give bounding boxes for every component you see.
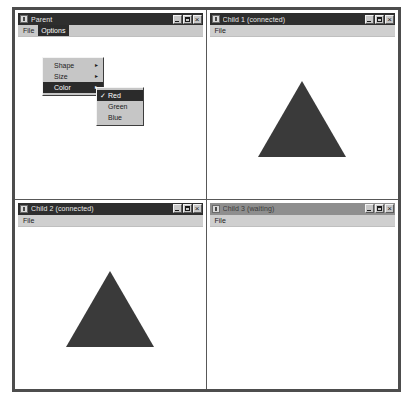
child3-menubar[interactable]: File bbox=[210, 215, 396, 227]
menu-item-blue[interactable]: Blue bbox=[97, 112, 143, 123]
menu-item-size-label: Size bbox=[53, 72, 92, 81]
parent-title: Parent bbox=[31, 15, 169, 24]
child1-menubar[interactable]: File bbox=[210, 25, 396, 37]
menu-item-green[interactable]: Green bbox=[97, 101, 143, 112]
app-icon bbox=[20, 15, 28, 23]
triangle-shape bbox=[66, 271, 154, 347]
child3-titlebar[interactable]: Child 3 (waiting) bbox=[210, 203, 396, 215]
menu-item-color-label: Color bbox=[53, 83, 92, 92]
window-grid: Parent File Options bbox=[15, 10, 398, 389]
menu-item-shape-label: Shape bbox=[53, 61, 92, 70]
parent-window-controls bbox=[173, 15, 202, 24]
chevron-right-icon: ▸ bbox=[92, 61, 100, 70]
child3-title: Child 3 (waiting) bbox=[223, 204, 362, 213]
menu-file[interactable]: File bbox=[212, 215, 230, 226]
maximize-icon[interactable] bbox=[375, 204, 384, 213]
menu-options[interactable]: Options bbox=[38, 25, 69, 36]
parent-menubar[interactable]: File Options bbox=[18, 25, 203, 37]
child1-window[interactable]: Child 1 (connected) File bbox=[209, 12, 397, 197]
child3-client-area bbox=[210, 227, 396, 387]
menu-item-shape[interactable]: Shape ▸ bbox=[43, 60, 103, 71]
close-icon[interactable] bbox=[385, 204, 394, 213]
close-icon[interactable] bbox=[193, 204, 202, 213]
child2-client-area bbox=[18, 227, 203, 387]
maximize-icon[interactable] bbox=[183, 204, 192, 213]
app-icon bbox=[212, 205, 220, 213]
parent-client-area: Shape ▸ Size ▸ Color ▸ bbox=[18, 37, 203, 196]
maximize-icon[interactable] bbox=[183, 15, 192, 24]
child2-window-controls bbox=[173, 204, 202, 213]
minimize-icon[interactable] bbox=[173, 15, 182, 24]
chevron-right-icon: ▸ bbox=[92, 72, 100, 81]
app-icon bbox=[212, 15, 220, 23]
child3-window-controls bbox=[365, 204, 394, 213]
color-submenu[interactable]: ✓ Red Green Blue bbox=[96, 87, 144, 126]
menu-item-color[interactable]: Color ▸ bbox=[43, 82, 103, 93]
minimize-icon[interactable] bbox=[173, 204, 182, 213]
mdi-outer-frame: Parent File Options bbox=[12, 7, 401, 392]
menu-file[interactable]: File bbox=[212, 25, 230, 36]
options-dropdown[interactable]: Shape ▸ Size ▸ Color ▸ bbox=[42, 57, 104, 96]
pane-child2: Child 2 (connected) File bbox=[15, 200, 207, 390]
child2-titlebar[interactable]: Child 2 (connected) bbox=[18, 203, 203, 215]
menu-item-green-label: Green bbox=[107, 102, 140, 111]
pane-parent: Parent File Options bbox=[15, 10, 207, 200]
parent-window[interactable]: Parent File Options bbox=[17, 12, 204, 197]
minimize-icon[interactable] bbox=[365, 15, 374, 24]
child1-window-controls bbox=[365, 15, 394, 24]
child1-titlebar[interactable]: Child 1 (connected) bbox=[210, 13, 396, 25]
menu-file[interactable]: File bbox=[20, 215, 38, 226]
child3-window[interactable]: Child 3 (waiting) File bbox=[209, 202, 397, 388]
pane-child1: Child 1 (connected) File bbox=[207, 10, 399, 200]
pane-child3: Child 3 (waiting) File bbox=[207, 200, 399, 390]
triangle-shape bbox=[258, 81, 346, 157]
menu-item-size[interactable]: Size ▸ bbox=[43, 71, 103, 82]
menu-item-blue-label: Blue bbox=[107, 113, 140, 122]
close-icon[interactable] bbox=[385, 15, 394, 24]
child2-title: Child 2 (connected) bbox=[31, 204, 169, 213]
minimize-icon[interactable] bbox=[365, 204, 374, 213]
parent-titlebar[interactable]: Parent bbox=[18, 13, 203, 25]
checkmark-icon: ✓ bbox=[99, 91, 107, 100]
menu-item-red[interactable]: ✓ Red bbox=[97, 90, 143, 101]
child2-menubar[interactable]: File bbox=[18, 215, 203, 227]
menu-item-red-label: Red bbox=[107, 91, 140, 100]
child1-title: Child 1 (connected) bbox=[223, 15, 362, 24]
app-icon bbox=[20, 205, 28, 213]
child1-client-area bbox=[210, 37, 396, 196]
child2-window[interactable]: Child 2 (connected) File bbox=[17, 202, 204, 388]
menu-file[interactable]: File bbox=[20, 25, 38, 36]
screen-root: Parent File Options bbox=[0, 0, 412, 409]
close-icon[interactable] bbox=[193, 15, 202, 24]
maximize-icon[interactable] bbox=[375, 15, 384, 24]
